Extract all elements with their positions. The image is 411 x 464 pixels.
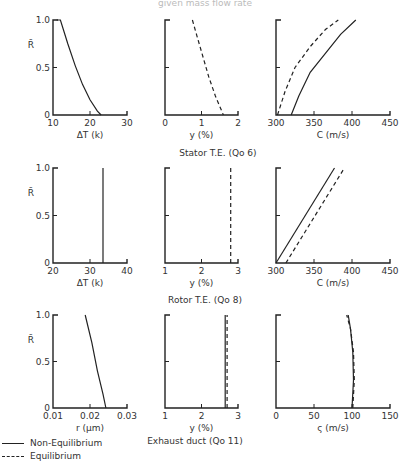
x-tick-label: 450 (381, 118, 398, 128)
chart-panel-9: 050100150ς (m/s) (273, 315, 399, 433)
x-tick-label: 1 (162, 411, 168, 421)
axes (165, 168, 238, 263)
axes (53, 315, 127, 408)
chart-panel-3: 300350400450C (m/s) (267, 20, 398, 140)
x-tick-label: 150 (381, 411, 398, 421)
non-equilibrium-curve (57, 20, 101, 115)
x-axis-label: y (%) (190, 278, 214, 288)
x-tick-label: 30 (121, 118, 133, 128)
x-tick-label: 0 (162, 118, 168, 128)
y-tick-label: 0.5 (36, 63, 50, 73)
x-tick-label: 50 (308, 411, 320, 421)
x-tick-label: 2 (199, 266, 205, 276)
x-tick-label: 1 (199, 118, 205, 128)
chart-panel-7: 0.010.020.03r (μm)00.51.0R̄ (28, 310, 137, 433)
y-tick-label: 0 (44, 110, 50, 120)
y-axis-label: R̄ (28, 334, 34, 345)
y-tick-label: 1.0 (36, 163, 51, 173)
x-tick-label: 2 (235, 118, 241, 128)
dashed-line-swatch-icon (2, 456, 24, 457)
equilibrium-curve (278, 20, 339, 115)
y-tick-label: 1.0 (36, 310, 51, 320)
axes (276, 20, 390, 115)
x-tick-label: 3 (235, 411, 241, 421)
axes (53, 168, 127, 263)
x-tick-label: 350 (305, 118, 322, 128)
x-tick-label: 20 (84, 118, 96, 128)
x-tick-label: 3 (235, 266, 241, 276)
row-caption-exhaust: Exhaust duct (Qo 11) (147, 436, 243, 446)
non-equilibrium-curve (291, 20, 356, 115)
chart-panel-6: 300350400450C (m/s) (267, 168, 398, 288)
x-tick-label: 40 (121, 266, 133, 276)
y-axis-label: R̄ (28, 187, 34, 198)
legend-item-non-equilibrium: Non-Equilibrium (2, 437, 102, 450)
chart-panel-8: 123y (%) (162, 315, 241, 433)
row-caption-stator: Stator T.E. (Qo 6) (179, 148, 256, 158)
chart-panel-2: 012y (%) (162, 20, 241, 140)
figure: given mass flow rate 102030ΔT (k)00.51.0… (0, 0, 411, 464)
x-tick-label: 350 (305, 266, 322, 276)
non-equilibrium-curve (85, 315, 106, 408)
x-tick-label: 100 (343, 411, 360, 421)
equilibrium-curve (286, 168, 345, 263)
legend-label: Equilibrium (30, 450, 81, 463)
chart-panel-5: 123y (%) (162, 168, 241, 288)
x-tick-label: 400 (343, 266, 360, 276)
x-axis-label: y (%) (190, 130, 214, 140)
x-axis-label: C (m/s) (317, 130, 350, 140)
x-tick-label: 2 (199, 411, 205, 421)
legend-label: Non-Equilibrium (30, 437, 102, 450)
non-equilibrium-curve (276, 168, 335, 263)
x-axis-label: ΔT (k) (77, 278, 104, 288)
x-tick-label: 30 (84, 266, 96, 276)
x-tick-label: 400 (343, 118, 360, 128)
y-axis-label: R̄ (28, 39, 34, 50)
y-tick-label: 0 (44, 258, 50, 268)
x-tick-label: 0.03 (117, 411, 137, 421)
x-axis-label: y (%) (190, 423, 214, 433)
axes (165, 20, 238, 115)
x-tick-label: 300 (267, 266, 284, 276)
x-axis-label: C (m/s) (317, 278, 350, 288)
header-title: given mass flow rate (158, 0, 252, 8)
x-tick-label: 300 (267, 118, 284, 128)
x-tick-label: 450 (381, 266, 398, 276)
axes (276, 168, 390, 263)
legend: Non-Equilibrium Equilibrium (2, 437, 102, 463)
x-tick-label: 0 (273, 411, 279, 421)
y-tick-label: 0 (44, 403, 50, 413)
x-tick-label: 1 (162, 266, 168, 276)
y-tick-label: 0.5 (36, 357, 50, 367)
axes (276, 315, 390, 408)
x-axis-label: ς (m/s) (317, 423, 349, 433)
legend-item-equilibrium: Equilibrium (2, 450, 102, 463)
x-axis-label: ΔT (k) (77, 130, 104, 140)
equilibrium-curve (192, 20, 223, 115)
x-tick-label: 0.02 (80, 411, 100, 421)
chart-panel-1: 102030ΔT (k)00.51.0R̄ (28, 15, 133, 140)
y-tick-label: 0.5 (36, 211, 50, 221)
row-caption-rotor: Rotor T.E. (Qo 8) (168, 295, 242, 305)
solid-line-swatch-icon (2, 443, 24, 444)
chart-panel-4: 203040ΔT (k)00.51.0R̄ (28, 163, 133, 288)
y-tick-label: 1.0 (36, 15, 51, 25)
x-axis-label: r (μm) (76, 423, 104, 433)
